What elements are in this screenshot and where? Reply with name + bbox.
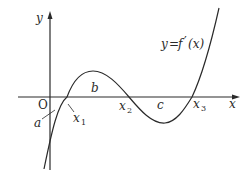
svg-text:x: x [73, 111, 80, 125]
region-b-label: b [91, 81, 99, 95]
y-axis-label: y [35, 11, 43, 25]
y-axis-arrow-icon [48, 11, 53, 19]
svg-text:1: 1 [81, 118, 86, 127]
x-axis-label: x [229, 97, 236, 111]
svg-text:′: ′ [184, 35, 187, 49]
y-axis [48, 11, 53, 170]
derivative-graph: y x O x 1 x 2 x 3 a b c y = f ′ (x) [0, 0, 245, 182]
region-c-label: c [157, 98, 164, 112]
svg-text:3: 3 [201, 104, 206, 113]
x3-label: x 3 [193, 97, 206, 113]
svg-text:x: x [193, 97, 200, 111]
x2-label: x 2 [119, 99, 132, 115]
svg-text:y: y [160, 37, 168, 51]
svg-text:2: 2 [127, 106, 132, 115]
svg-text:x: x [119, 99, 126, 113]
region-a-label: a [34, 116, 41, 130]
derivative-curve [44, 8, 219, 169]
svg-text:(x): (x) [188, 37, 204, 51]
origin-label: O [38, 98, 48, 112]
curve-equation-label: y = f ′ (x) [160, 35, 204, 51]
x1-label: x 1 [73, 111, 86, 127]
